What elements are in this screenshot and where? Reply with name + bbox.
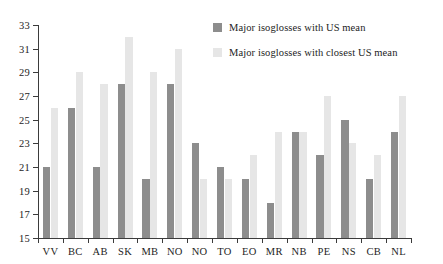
bar bbox=[76, 72, 83, 238]
x-axis-tick bbox=[262, 238, 263, 243]
bar bbox=[366, 179, 373, 238]
x-axis-label: MR bbox=[266, 246, 283, 257]
x-axis-tick bbox=[411, 238, 412, 243]
bar bbox=[267, 203, 274, 239]
bar bbox=[175, 49, 182, 238]
y-axis-label: 19 bbox=[0, 185, 30, 196]
y-axis-label: 25 bbox=[0, 114, 30, 125]
x-axis-tick bbox=[336, 238, 337, 243]
bar bbox=[399, 96, 406, 238]
legend-label-dark: Major isoglosses with US mean bbox=[229, 22, 365, 33]
chart-legend: Major isoglosses with US mean Major isog… bbox=[213, 22, 397, 72]
y-axis-label: 23 bbox=[0, 138, 30, 149]
x-axis-label: NO bbox=[167, 246, 183, 257]
bar bbox=[391, 132, 398, 239]
bar-chart: 15171921232527293133 VVBCABSKMBNONOTOEOM… bbox=[0, 0, 443, 264]
legend-swatch-dark-icon bbox=[213, 23, 222, 32]
bar bbox=[316, 155, 323, 238]
y-axis-label: 15 bbox=[0, 233, 30, 244]
x-axis-tick bbox=[237, 238, 238, 243]
bar bbox=[299, 132, 306, 239]
x-axis-tick bbox=[386, 238, 387, 243]
x-axis-label: MB bbox=[141, 246, 158, 257]
x-axis-label: VV bbox=[43, 246, 59, 257]
x-axis-tick bbox=[187, 238, 188, 243]
bar bbox=[142, 179, 149, 238]
bar bbox=[150, 72, 157, 238]
x-axis-label: AB bbox=[93, 246, 108, 257]
x-axis-label: BC bbox=[68, 246, 83, 257]
y-axis-label: 29 bbox=[0, 67, 30, 78]
x-axis-tick bbox=[287, 238, 288, 243]
bar bbox=[125, 37, 132, 238]
x-axis-tick bbox=[38, 238, 39, 243]
bar bbox=[242, 179, 249, 238]
bar bbox=[192, 143, 199, 238]
x-axis-tick bbox=[63, 238, 64, 243]
x-axis-tick bbox=[113, 238, 114, 243]
bar bbox=[68, 108, 75, 238]
y-axis-label: 33 bbox=[0, 20, 30, 31]
x-axis-label: TO bbox=[217, 246, 231, 257]
x-axis-tick bbox=[212, 238, 213, 243]
bar bbox=[225, 179, 232, 238]
legend-label-light: Major isoglosses with closest US mean bbox=[229, 47, 397, 58]
bar bbox=[250, 155, 257, 238]
x-axis-label: SK bbox=[118, 246, 132, 257]
bar bbox=[374, 155, 381, 238]
x-axis-label: EO bbox=[242, 246, 257, 257]
x-axis-tick bbox=[361, 238, 362, 243]
x-axis-line bbox=[38, 238, 412, 239]
legend-swatch-light-icon bbox=[213, 48, 222, 57]
bar bbox=[200, 179, 207, 238]
legend-item-light: Major isoglosses with closest US mean bbox=[213, 47, 397, 58]
bar bbox=[217, 167, 224, 238]
bar bbox=[100, 84, 107, 238]
x-axis-tick bbox=[137, 238, 138, 243]
bar bbox=[43, 167, 50, 238]
legend-item-dark: Major isoglosses with US mean bbox=[213, 22, 397, 33]
bar bbox=[292, 132, 299, 239]
bar bbox=[341, 120, 348, 238]
x-axis-label: NL bbox=[391, 246, 406, 257]
bar bbox=[349, 143, 356, 238]
bar bbox=[51, 108, 58, 238]
bar bbox=[324, 96, 331, 238]
bar bbox=[118, 84, 125, 238]
bar bbox=[275, 132, 282, 239]
x-axis-label: NB bbox=[292, 246, 307, 257]
y-axis-label: 27 bbox=[0, 91, 30, 102]
x-axis-label: CB bbox=[366, 246, 381, 257]
x-axis-label: NO bbox=[192, 246, 208, 257]
y-axis-label: 17 bbox=[0, 209, 30, 220]
bar bbox=[93, 167, 100, 238]
bar bbox=[167, 84, 174, 238]
x-axis-label: NS bbox=[342, 246, 356, 257]
x-axis-tick bbox=[162, 238, 163, 243]
x-axis-tick bbox=[312, 238, 313, 243]
y-axis-label: 21 bbox=[0, 162, 30, 173]
x-axis-tick bbox=[88, 238, 89, 243]
y-axis-label: 31 bbox=[0, 43, 30, 54]
x-axis-label: PE bbox=[318, 246, 331, 257]
